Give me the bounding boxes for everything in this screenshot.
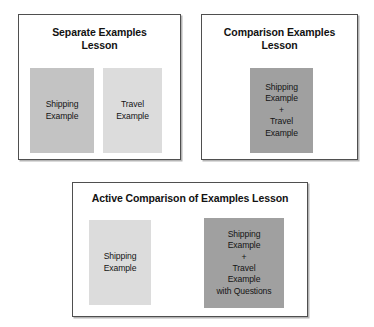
- card-active-shipping-plus-travel-with-questions: Shipping Example + Travel Example with Q…: [204, 218, 284, 308]
- card-shipping-example: Shipping Example: [30, 68, 94, 153]
- card-shipping-plus-travel-example: Shipping Example + Travel Example: [250, 68, 313, 153]
- panel-separate-title: Separate Examples Lesson: [23, 26, 176, 51]
- panel-comparison-examples-lesson: Comparison Examples Lesson Shipping Exam…: [201, 14, 358, 160]
- card-active-shipping-example: Shipping Example: [89, 220, 151, 305]
- card-travel-example-label: Travel Example: [105, 99, 160, 122]
- card-travel-example: Travel Example: [103, 68, 162, 153]
- card-active-shipping-example-label: Shipping Example: [91, 251, 149, 274]
- panel-active-title: Active Comparison of Examples Lesson: [77, 192, 303, 205]
- card-shipping-example-label: Shipping Example: [32, 99, 92, 122]
- card-active-shipping-plus-travel-with-questions-label: Shipping Example + Travel Example with Q…: [206, 229, 282, 297]
- panel-separate-examples-lesson: Separate Examples Lesson Shipping Exampl…: [18, 14, 181, 160]
- card-shipping-plus-travel-example-label: Shipping Example + Travel Example: [252, 82, 311, 139]
- panel-active-comparison-of-examples-lesson: Active Comparison of Examples Lesson Shi…: [72, 182, 308, 317]
- diagram-canvas: Separate Examples Lesson Shipping Exampl…: [0, 0, 374, 327]
- panel-comparison-title: Comparison Examples Lesson: [206, 26, 353, 51]
